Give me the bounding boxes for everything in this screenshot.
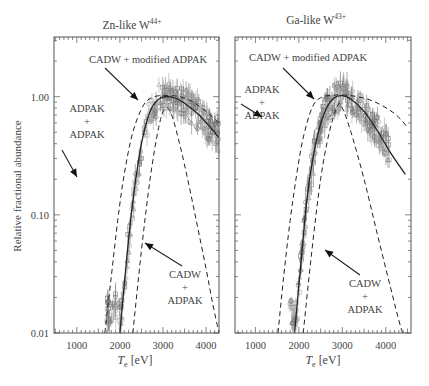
annotation-label: +	[259, 97, 265, 108]
y-axis-label: Relative fractional abundance	[11, 120, 23, 251]
annotation-label: ADPAK	[167, 295, 203, 306]
x-tick-label: 1000	[245, 340, 266, 351]
x-tick-label: 4000	[196, 340, 217, 351]
y-tick-label: 0.01	[31, 328, 49, 339]
annotation-label: ADPAK	[244, 110, 280, 121]
curve-cadw-modified-adpak	[295, 96, 406, 333]
arrow-head-icon	[70, 168, 77, 177]
annotation-label: ADPAK	[69, 103, 105, 114]
annotation-label: +	[84, 116, 90, 127]
arrow-head-icon	[325, 250, 334, 257]
annotation-label: CADW	[349, 278, 381, 289]
x-tick-label: 3000	[332, 340, 353, 351]
x-tick-label: 2000	[109, 340, 130, 351]
measured-data-points	[288, 71, 392, 332]
plot-frame	[235, 37, 411, 333]
panel-title: Zn-like W44+	[102, 17, 161, 31]
annotation-label: +	[182, 282, 188, 293]
panel-title: Ga-like W43+	[286, 12, 346, 26]
annotation-label: ADPAK	[69, 129, 105, 140]
annotation-label: +	[362, 291, 368, 302]
x-tick-label: 2000	[288, 340, 309, 351]
arrow-head-icon	[145, 243, 154, 250]
x-tick-label: 1000	[66, 340, 87, 351]
y-tick-label: 1.00	[31, 92, 49, 103]
x-axis-label-right: Te [eV]	[305, 353, 340, 369]
annotation-label: CADW	[169, 269, 201, 280]
annotation-label: CADW + modified ADPAK	[249, 52, 368, 63]
panel-ga-like: Ga-like W43+1000200030004000CADW + modif…	[235, 12, 411, 351]
x-tick-label: 3000	[152, 340, 173, 351]
annotation-label: CADW + modified ADPAK	[89, 54, 208, 65]
x-tick-label: 4000	[375, 340, 396, 351]
x-axis-label-left: Te [eV]	[117, 353, 152, 369]
annotation-label: ADPAK	[347, 304, 383, 315]
panel-zn-like: Zn-like W44+10002000300040000.010.101.00…	[31, 17, 221, 351]
annotation-arrows	[62, 68, 360, 275]
annotation-label: ADPAK	[244, 84, 280, 95]
abundance-chart-figure: Zn-like W44+10002000300040000.010.101.00…	[0, 0, 429, 386]
y-tick-label: 0.10	[31, 210, 49, 221]
